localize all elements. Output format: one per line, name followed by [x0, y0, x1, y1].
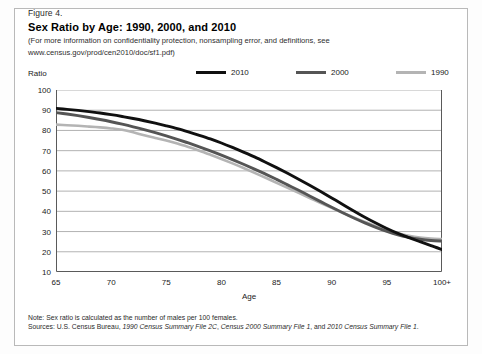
line-swatch-icon [396, 71, 426, 75]
figure-title: Sex Ratio by Age: 1990, 2000, and 2010 [28, 20, 448, 34]
chart-plot-area: 10090807060504030201065707580859095100+ [56, 90, 442, 272]
line-chart-svg [56, 90, 442, 272]
legend-item-1990[interactable]: 1990 [396, 68, 449, 77]
chart-legend: Ratio 2010 2000 1990 [28, 68, 453, 82]
note-text: Note: Sex ratio is calculated as the num… [28, 313, 448, 322]
line-swatch-icon [196, 71, 226, 75]
source-2: Census 2000 Summary File 1 [221, 323, 311, 330]
x-axis-title: Age [56, 292, 442, 301]
figure-header: Figure 4. Sex Ratio by Age: 1990, 2000, … [28, 8, 448, 57]
y-axis-tick-label: 40 [29, 207, 51, 216]
figure-number: Figure 4. [28, 8, 448, 19]
y-axis-tick-label: 30 [29, 227, 51, 236]
x-axis-tick-label: 80 [217, 278, 226, 287]
x-axis-tick-label: 100+ [433, 278, 451, 287]
legend-item-2010[interactable]: 2010 [196, 68, 249, 77]
series-line-1990 [56, 125, 442, 239]
legend-label-1990: 1990 [431, 68, 449, 77]
series-line-2000 [56, 113, 442, 241]
source-3: 2010 Census Summary File 1 [327, 323, 417, 330]
figure-subtitle-line-2: www.census.gov/prod/cen2010/doc/sf1.pdf) [28, 48, 448, 58]
y-axis-tick-label: 50 [29, 187, 51, 196]
figure-subtitle-line-1: (For more information on confidentiality… [28, 36, 448, 46]
figure-notes: Note: Sex ratio is calculated as the num… [28, 313, 448, 331]
x-axis-tick-label: 65 [52, 278, 61, 287]
y-axis-tick-label: 80 [29, 126, 51, 135]
source-1: 1990 Census Summary File 2C [122, 323, 216, 330]
plot-frame [57, 90, 442, 272]
legend-label-2010: 2010 [231, 68, 249, 77]
sources-sep-2: , and [310, 323, 327, 330]
x-axis-tick-label: 70 [107, 278, 116, 287]
y-axis-tick-label: 100 [29, 86, 51, 95]
sources-prefix: Sources: U.S. Census Bureau, [28, 323, 122, 330]
y-axis-tick-label: 10 [29, 268, 51, 277]
y-axis-tick-label: 20 [29, 247, 51, 256]
x-axis-tick-label: 95 [382, 278, 391, 287]
x-axis-tick-label: 75 [162, 278, 171, 287]
x-axis-tick-label: 85 [272, 278, 281, 287]
figure-panel: Figure 4. Sex Ratio by Age: 1990, 2000, … [0, 0, 482, 354]
y-axis-tick-label: 60 [29, 166, 51, 175]
x-axis-tick-label: 90 [327, 278, 336, 287]
legend-item-2000[interactable]: 2000 [296, 68, 349, 77]
line-swatch-icon [296, 71, 326, 75]
y-axis-tick-label: 90 [29, 106, 51, 115]
sources-text: Sources: U.S. Census Bureau, 1990 Census… [28, 322, 448, 331]
legend-label-2000: 2000 [331, 68, 349, 77]
y-axis-tick-label: 70 [29, 146, 51, 155]
sources-end: . [417, 323, 419, 330]
y-axis-title: Ratio [28, 69, 47, 78]
